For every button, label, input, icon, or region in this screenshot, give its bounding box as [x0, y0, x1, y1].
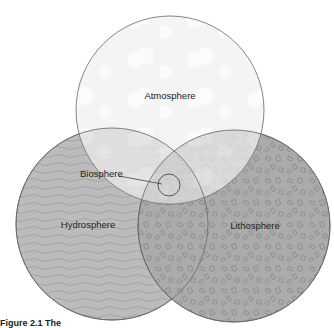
hydrosphere-label: Hydrosphere [61, 219, 115, 230]
lithosphere-label: Lithosphere [230, 220, 280, 231]
atmosphere-label: Atmosphere [144, 90, 195, 101]
biosphere-label: Biosphere [80, 168, 123, 179]
venn-diagram: Atmosphere Hydrosphere Lithosphere Biosp… [0, 0, 334, 328]
figure-caption: Figure 2.1 The [0, 318, 61, 328]
